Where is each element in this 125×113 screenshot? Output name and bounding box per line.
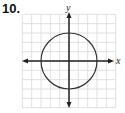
y-axis-down-arrow-icon bbox=[67, 102, 72, 108]
x-axis-left-arrow-icon bbox=[22, 59, 28, 64]
coordinate-graph: x y bbox=[0, 0, 125, 113]
y-axis-label: y bbox=[65, 2, 71, 13]
y-axis bbox=[67, 12, 72, 108]
x-axis-right-arrow-icon bbox=[108, 59, 114, 64]
x-axis-label: x bbox=[115, 55, 121, 66]
x-axis bbox=[22, 59, 114, 64]
